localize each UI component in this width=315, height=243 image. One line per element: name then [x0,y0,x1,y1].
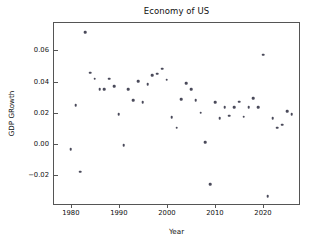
scatter-point [271,117,274,120]
scatter-point [218,117,221,120]
chart-figure: Economy of US GDP GRowth −0.020.000.020.… [0,0,315,243]
scatter-point [252,97,255,100]
y-tick-label: 0.06 [34,46,49,54]
scatter-point [103,88,106,91]
scatter-point [214,101,217,104]
scatter-point [146,83,149,86]
scatter-point [180,98,183,101]
x-axis-label: Year [53,227,300,236]
scatter-point [247,106,250,109]
scatter-point [262,53,265,56]
plot-axes: −0.020.000.020.040.061980199020002010202… [53,22,300,205]
scatter-point [228,114,231,117]
scatter-point [94,77,97,80]
scatter-plot-area [54,23,299,204]
scatter-point [161,68,164,71]
scatter-point [266,195,269,198]
y-tick-label: 0.00 [34,140,49,148]
scatter-point [127,88,130,91]
x-tick-label: 2020 [254,209,271,217]
scatter-point [204,141,207,144]
scatter-point [98,88,101,91]
x-tick-mark [167,204,168,208]
scatter-point [74,104,77,107]
scatter-point [122,144,125,147]
x-tick-label: 2000 [158,209,175,217]
scatter-point [151,74,154,77]
y-tick-mark [54,113,58,114]
y-tick-label: 0.04 [34,78,49,86]
scatter-point [89,71,92,74]
scatter-point [286,110,289,113]
scatter-point [132,99,135,102]
scatter-point [276,126,279,129]
y-tick-mark [54,175,58,176]
scatter-point [281,124,284,127]
scatter-point [70,148,73,151]
y-axis-label-text: GDP GRowth [8,91,17,137]
scatter-point [79,170,82,173]
scatter-point [175,126,178,129]
scatter-point [257,106,260,109]
scatter-point [238,100,241,103]
scatter-point [199,111,202,114]
x-tick-label: 2010 [206,209,223,217]
scatter-point [233,106,236,109]
scatter-point [170,116,173,119]
scatter-point [137,80,140,83]
y-tick-label: −0.02 [28,171,49,179]
scatter-point [190,88,193,91]
scatter-point [118,113,121,116]
scatter-point [108,77,111,80]
x-tick-mark [263,204,264,208]
x-tick-mark [71,204,72,208]
scatter-point [223,106,226,109]
x-tick-mark [119,204,120,208]
scatter-point [166,78,169,81]
scatter-point [113,85,116,88]
scatter-point [194,99,197,102]
scatter-point [142,101,145,104]
y-tick-label: 0.02 [34,109,49,117]
y-tick-mark [54,144,58,145]
x-tick-label: 1990 [110,209,127,217]
x-tick-mark [215,204,216,208]
scatter-point [84,31,87,34]
x-tick-label: 1980 [62,209,79,217]
scatter-point [156,73,159,76]
scatter-point [209,183,212,186]
scatter-point [185,82,188,85]
chart-title: Economy of US [53,6,300,16]
scatter-point [290,113,293,116]
y-axis-label: GDP GRowth [6,22,18,205]
y-tick-mark [54,50,58,51]
scatter-point [242,115,245,118]
y-tick-mark [54,82,58,83]
